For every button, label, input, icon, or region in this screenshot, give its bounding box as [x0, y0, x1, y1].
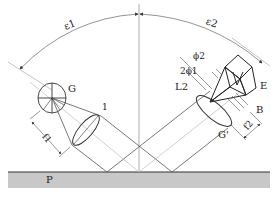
label-2phi-1: 2ϕ1	[180, 67, 198, 76]
label-e: E	[260, 81, 267, 91]
label-b: B	[256, 105, 263, 115]
label-lens-1: 1	[102, 103, 108, 112]
lens-1	[68, 111, 103, 149]
incident-beams	[52, 91, 228, 172]
label-p: P	[46, 175, 53, 185]
optical-diagram	[0, 0, 276, 202]
beam-axes	[30, 82, 240, 172]
label-phi-2: ϕ2	[193, 52, 205, 61]
grating-g	[38, 83, 66, 113]
label-l2: L2	[175, 82, 188, 92]
detector-e	[210, 55, 256, 102]
label-g: G	[68, 84, 76, 94]
label-g-prime: G'	[218, 130, 229, 140]
